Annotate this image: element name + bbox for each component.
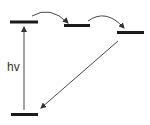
energy-level-upper-2 xyxy=(64,24,90,27)
transfer-arrow-2 xyxy=(88,16,124,28)
photon-energy-label: hv xyxy=(7,61,20,73)
energy-level-ground xyxy=(11,113,38,116)
energy-level-upper-1 xyxy=(10,21,38,24)
energy-level-diagram xyxy=(0,0,150,125)
energy-level-upper-3 xyxy=(117,31,144,34)
relaxation-arrow xyxy=(41,41,118,108)
